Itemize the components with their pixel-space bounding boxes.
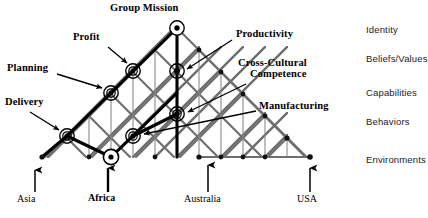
callout-delivery: Delivery (5, 96, 44, 107)
lattice-left-diagonals (48, 28, 287, 157)
level-label-identity: Identity (366, 25, 398, 35)
arrow-delivery (30, 112, 59, 130)
callout-arrows (30, 40, 256, 134)
callout-manufacturing: Manufacturing (259, 100, 329, 111)
axis-label-asia: Asia (17, 194, 35, 205)
axis-label-usa: USA (297, 194, 317, 205)
node-profit[interactable] (126, 64, 140, 78)
node-africa[interactable] (103, 149, 118, 164)
axis-arrows (35, 165, 310, 192)
axis-label-australia: Australia (184, 194, 221, 205)
level-label-environments: Environments (366, 155, 426, 165)
axis-label-africa: Africa (88, 193, 115, 204)
lattice-right-diagonals (67, 28, 306, 157)
callout-profit: Profit (73, 31, 100, 42)
callout-group-mission: Group Mission (110, 2, 179, 13)
arrow-planning (57, 74, 102, 88)
level-label-behaviors: Behaviors (366, 117, 410, 127)
callout-planning: Planning (7, 62, 48, 73)
callout-cross-cultural-line1: Cross-Cultural (238, 57, 307, 68)
callout-cross-cultural-line2: Competence (238, 68, 306, 79)
callout-cross-cultural-competence: Cross-Cultural Competence (238, 57, 334, 80)
level-label-beliefs-values: Beliefs/Values (366, 54, 428, 64)
arrow-profit (108, 47, 127, 63)
node-group-mission[interactable] (170, 21, 184, 35)
node-delivery[interactable] (60, 129, 74, 143)
level-label-capabilities: Capabilities (366, 88, 417, 98)
callout-productivity: Productivity (236, 28, 293, 39)
